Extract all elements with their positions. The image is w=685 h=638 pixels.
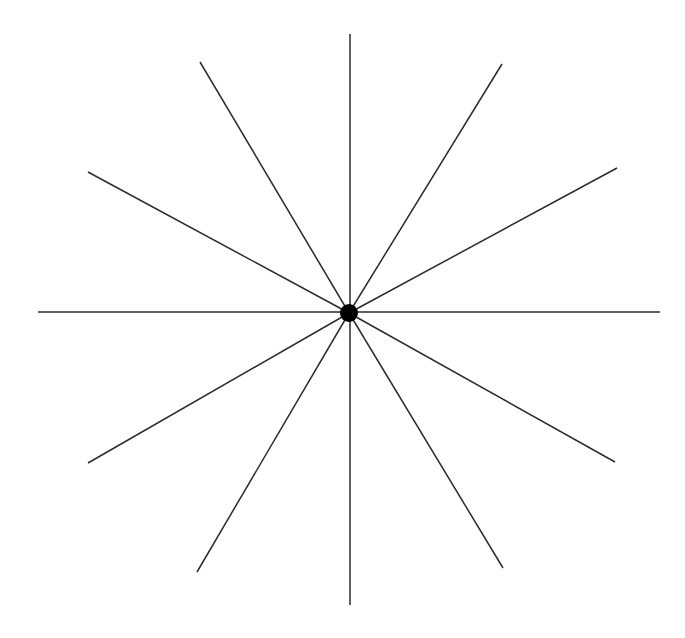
figure-canvas-root: [0, 0, 685, 638]
center-hub-dot: [340, 304, 358, 322]
radial-spoke-diagram: [0, 0, 685, 638]
